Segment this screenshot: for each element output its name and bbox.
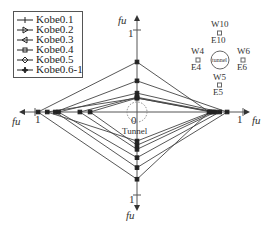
- axis-label-bottom: fu: [126, 209, 135, 221]
- tick-bottom: 1: [129, 193, 135, 205]
- axis-label-right: fu: [252, 114, 261, 126]
- series-Kobe0.6-1: [38, 62, 209, 179]
- tick-right: 1: [237, 113, 243, 125]
- tick-left: 1: [35, 113, 41, 125]
- legend: Kobe0.1 Kobe0.2 Kobe0.3 Kobe0.4 Kobe0.5 …: [13, 11, 83, 78]
- axis-label-top: fu: [118, 14, 127, 26]
- legend-markers: [14, 12, 36, 77]
- series-Kobe0.3: [80, 97, 216, 149]
- axis-label-left: fu: [12, 115, 21, 127]
- center-label: Tunnel: [122, 126, 147, 136]
- tick-top: 1: [128, 27, 134, 39]
- origin-label: 0: [131, 114, 137, 126]
